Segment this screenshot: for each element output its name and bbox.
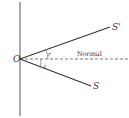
label-angle-i: i [44, 62, 46, 69]
reflection-diagram: O S' S Normal r i [0, 0, 129, 118]
incident-ray [20, 59, 91, 86]
label-angle-r: r [48, 50, 52, 57]
label-reflected-ray: S' [112, 22, 121, 32]
label-origin: O [13, 54, 21, 64]
angle-arc-i [40, 59, 41, 67]
label-normal: Normal [77, 50, 102, 58]
label-incident-ray: S [93, 81, 99, 91]
